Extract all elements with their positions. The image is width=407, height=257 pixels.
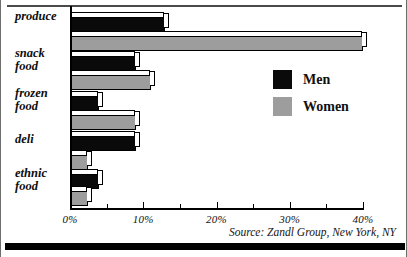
bar-top-face <box>71 31 362 36</box>
x-axis-major-tick <box>217 202 218 209</box>
bar-women-produce[interactable] <box>70 36 363 51</box>
x-axis-tick-label: 30% <box>270 213 310 225</box>
x-axis-minor-tick <box>180 204 181 209</box>
bar-right-face <box>164 13 169 28</box>
bar-right-face <box>87 187 92 202</box>
bar-top-face <box>71 131 135 136</box>
bar-right-face <box>135 111 140 126</box>
bar-women-frozen-food[interactable] <box>70 115 136 130</box>
x-axis-tick-label: 40% <box>343 213 383 225</box>
bar-women-deli[interactable] <box>70 155 88 170</box>
x-axis-major-tick <box>290 202 291 209</box>
bar-right-face <box>362 32 367 47</box>
category-label-ethnic-food: ethnic food <box>15 167 73 193</box>
bar-right-face <box>150 71 155 86</box>
x-axis-major-tick <box>363 202 364 209</box>
category-label-line: food <box>15 100 73 113</box>
bar-top-face <box>71 51 135 56</box>
bar-men-deli[interactable] <box>70 136 136 151</box>
bar-right-face <box>98 92 103 107</box>
category-label-line: deli <box>15 133 73 146</box>
bar-women-snack-food[interactable] <box>70 75 151 90</box>
legend-item-men[interactable]: Men <box>273 70 383 89</box>
bar-top-face <box>71 91 98 96</box>
bar-top-face <box>71 150 87 155</box>
bar-top-face <box>71 169 98 174</box>
bottom-black-bar <box>5 243 405 250</box>
x-axis-minor-tick <box>107 204 108 209</box>
bar-top-face <box>71 186 87 191</box>
category-label-snack-food: snack food <box>15 47 73 73</box>
source-note: Source: Zandl Group, New York, NY <box>229 226 396 238</box>
category-label-line: food <box>15 60 73 73</box>
chart-figure: produce snack food frozen food deli ethn… <box>0 0 407 257</box>
x-axis-tick-label: 10% <box>123 213 163 225</box>
x-axis-tick-label: 20% <box>197 213 237 225</box>
bar-top-face <box>71 12 164 17</box>
legend-item-women[interactable]: Women <box>273 97 383 116</box>
legend-swatch-men-icon <box>273 70 292 89</box>
category-label-produce: produce <box>15 10 73 23</box>
category-label-line: produce <box>15 10 73 23</box>
x-axis-minor-tick <box>326 204 327 209</box>
bar-right-face <box>98 170 103 185</box>
x-axis-minor-tick <box>253 204 254 209</box>
bar-top-face <box>71 70 150 75</box>
bar-top-face <box>71 110 135 115</box>
x-axis-major-tick <box>143 202 144 209</box>
category-label-line: food <box>15 180 73 193</box>
bar-right-face <box>87 151 92 166</box>
category-label-deli: deli <box>15 133 73 146</box>
y-axis-line <box>70 6 72 209</box>
legend-label-men: Men <box>303 72 330 88</box>
category-label-frozen-food: frozen food <box>15 87 73 113</box>
bar-women-ethnic-food[interactable] <box>70 191 88 206</box>
chart-legend: Men Women <box>273 70 383 124</box>
bar-right-face <box>135 52 140 67</box>
bar-right-face <box>135 132 140 147</box>
bar-men-produce[interactable] <box>70 17 165 32</box>
x-axis-major-tick <box>70 202 71 209</box>
bar-men-snack-food[interactable] <box>70 56 136 71</box>
legend-label-women: Women <box>303 99 349 115</box>
legend-swatch-women-icon <box>273 97 292 116</box>
x-axis-tick-label: 0% <box>50 213 90 225</box>
bar-men-frozen-food[interactable] <box>70 96 99 111</box>
